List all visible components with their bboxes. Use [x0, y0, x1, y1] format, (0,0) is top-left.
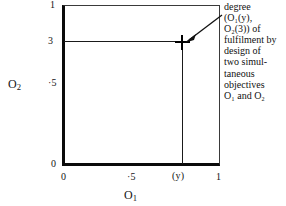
x-tick-label-point5: ·5 — [127, 172, 136, 182]
annotation-line-8: objectives — [224, 79, 286, 90]
annotation-line-6: two simul- — [224, 56, 286, 67]
y-tick-label-3: 3 — [48, 36, 53, 46]
annotation-line-2: (O₁(y), — [224, 12, 286, 23]
y-axis-title-subscript: 2 — [17, 82, 21, 92]
y-axis-title-base: O — [8, 77, 17, 91]
annotation-line-4: fulfilment by — [224, 34, 286, 45]
annotation-line-9: O₁ and O₂ — [224, 90, 286, 101]
annotation-line-3: O₂(3)) of — [224, 23, 286, 34]
annotation-line-1: degree — [224, 1, 286, 12]
x-tick-label-1: 1 — [216, 172, 221, 182]
y-tick-label-point5: ·5 — [48, 78, 57, 88]
annotation-line-7: taneous — [224, 68, 286, 79]
annotation-line-5: design of — [224, 45, 286, 56]
y-axis-title: O2 — [8, 78, 21, 90]
x-tick-label-y: (y) — [172, 171, 184, 181]
annotation-text-block: degree (O₁(y), O₂(3)) of fulfilment by d… — [224, 1, 286, 101]
horizontal-guide-line — [64, 41, 184, 42]
annotation-arrow-icon — [183, 14, 223, 44]
x-tick-label-0: 0 — [61, 172, 66, 182]
y-tick-label-1: 1 — [50, 0, 55, 10]
x-axis-title: O1 — [124, 189, 137, 201]
x-axis-title-base: O — [124, 188, 133, 202]
figure-canvas: 1 3 ·5 0 0 ·5 (y) 1 O2 O1 degree (O₁(y),… — [0, 0, 286, 206]
y-tick-label-0: 0 — [51, 159, 56, 169]
x-axis-title-subscript: 1 — [133, 193, 137, 203]
vertical-guide-line — [182, 42, 183, 164]
